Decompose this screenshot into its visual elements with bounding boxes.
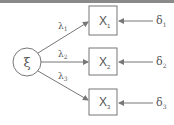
svg-text:λ3: λ3 (58, 71, 68, 82)
svg-text:λ1: λ1 (58, 21, 68, 32)
latent-node: ξ (13, 48, 41, 76)
loading-paths (38, 22, 88, 100)
loading-labels: λ1 λ2 λ3 (58, 21, 68, 82)
svg-text:δ3: δ3 (156, 96, 167, 110)
svg-text:δ2: δ2 (156, 55, 167, 69)
error-labels: δ1 δ2 δ3 (156, 14, 167, 110)
latent-label: ξ (23, 55, 30, 70)
indicator-boxes: X1 X2 X3 (89, 6, 117, 115)
svg-text:δ1: δ1 (156, 14, 166, 28)
path-diagram: ξ λ1 λ2 λ3 X1 X2 X3 δ1 δ2 δ3 (0, 0, 174, 125)
svg-text:λ2: λ2 (58, 49, 68, 60)
error-paths (119, 21, 153, 103)
